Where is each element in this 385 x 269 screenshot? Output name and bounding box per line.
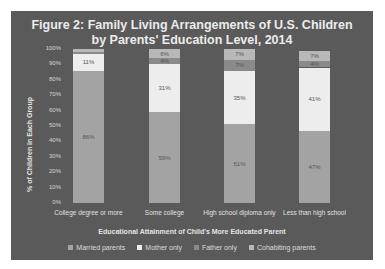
bar-segment-married-parents: 47% (299, 131, 330, 203)
bar-stack: 51%35%7%7% (224, 49, 255, 203)
bar-segment-cohabiting-parents: 6% (149, 49, 180, 58)
y-tick-label: 30% (37, 153, 61, 159)
bar-segment-cohabiting-parents (73, 49, 104, 52)
bar-segment-father-only: 4% (299, 61, 330, 67)
bar-stack: 86%11% (73, 49, 104, 203)
title-line-1: Figure 2: Family Living Arrangements of … (11, 18, 373, 33)
y-tick-label: 40% (37, 137, 61, 143)
legend-item: Cohabiting parents (249, 244, 316, 251)
legend-item: Married parents (68, 244, 125, 251)
bar-stack: 47%41%4%7% (299, 49, 330, 203)
legend-label: Married parents (76, 244, 125, 251)
bar-segment-cohabiting-parents: 7% (224, 49, 255, 60)
legend: Married parentsMother onlyFather onlyCoh… (11, 244, 373, 251)
chart-title: Figure 2: Family Living Arrangements of … (11, 18, 373, 48)
legend-label: Mother only (145, 244, 182, 251)
x-axis-label: Educational Attainment of Child's More E… (11, 228, 373, 235)
legend-label: Father only (202, 244, 237, 251)
x-category-label: Less than high school (260, 209, 370, 216)
legend-swatch-icon (137, 245, 142, 250)
bar-segment-father-only: 4% (149, 58, 180, 64)
y-tick-label: 70% (37, 91, 61, 97)
legend-label: Cohabiting parents (257, 244, 316, 251)
bar-segment-mother-only: 11% (73, 54, 104, 71)
bar-segment-mother-only: 35% (224, 71, 255, 125)
y-tick-label: 80% (37, 76, 61, 82)
bar-segment-married-parents: 59% (149, 112, 180, 203)
legend-item: Father only (194, 244, 237, 251)
legend-swatch-icon (194, 245, 199, 250)
chart-panel: Figure 2: Family Living Arrangements of … (11, 11, 373, 260)
bar-segment-married-parents: 86% (73, 71, 104, 203)
legend-item: Mother only (137, 244, 182, 251)
bar-segment-mother-only: 31% (149, 64, 180, 112)
y-tick-label: 10% (37, 184, 61, 190)
legend-swatch-icon (249, 245, 254, 250)
y-tick-label: 50% (37, 122, 61, 128)
bar-segment-mother-only: 41% (299, 68, 330, 131)
bar-segment-cohabiting-parents: 7% (299, 51, 330, 62)
bar-segment-father-only: 7% (224, 60, 255, 71)
bar-stack: 59%31%4%6% (149, 49, 180, 203)
y-axis-label: % of Children in Each Group (26, 75, 33, 215)
bar-segment-father-only (73, 52, 104, 54)
y-tick-label: 60% (37, 107, 61, 113)
bar-segment-married-parents: 51% (224, 124, 255, 203)
y-tick-label: 20% (37, 168, 61, 174)
y-tick-label: 90% (37, 60, 61, 66)
y-tick-label: 0% (37, 199, 61, 205)
title-line-2: by Parents' Education Level, 2014 (11, 33, 373, 48)
legend-swatch-icon (68, 245, 73, 250)
y-tick-label: 100% (37, 45, 61, 51)
